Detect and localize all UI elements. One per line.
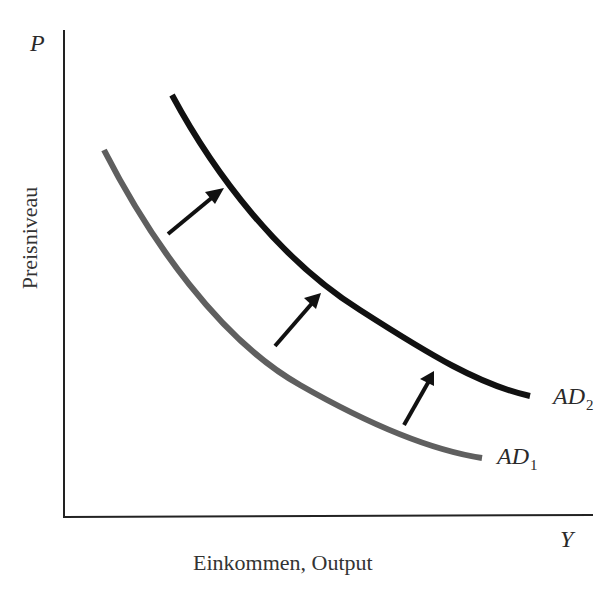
ad-shift-diagram <box>0 0 611 595</box>
shift-arrow-3 <box>404 371 434 425</box>
y-axis-symbol: P <box>30 30 45 57</box>
y-axis-title: Preisniveau <box>17 187 43 290</box>
ad2-label-main: AD <box>553 383 585 409</box>
ad1-label-sub: 1 <box>530 457 538 473</box>
shift-arrow-1 <box>168 188 224 234</box>
shift-arrow-2 <box>275 293 321 346</box>
ad2-label: AD2 <box>553 383 594 414</box>
ad2-label-sub: 2 <box>586 397 594 413</box>
ad1-label-main: AD <box>497 443 529 469</box>
ad1-curve <box>104 150 482 458</box>
x-axis-title: Einkommen, Output <box>193 550 373 576</box>
ad2-curve <box>172 95 530 396</box>
ad1-label: AD1 <box>497 443 538 474</box>
x-axis-symbol: Y <box>560 526 573 553</box>
x-axis <box>63 515 593 517</box>
